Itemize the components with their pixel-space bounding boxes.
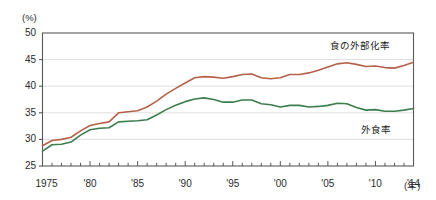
line-chart-plot [0, 0, 436, 200]
series-label-eating-out: 外食率 [361, 122, 391, 136]
y-gridlines [43, 60, 414, 140]
series-label-food-externalization: 食の外部化率 [330, 38, 390, 52]
plot-frame [43, 33, 414, 166]
chart-container: (%) (年) 253035404550 1975'80'85'90'95'00… [0, 0, 436, 200]
series-line-food-externalization [43, 62, 414, 146]
x-axis-ticks [43, 161, 414, 166]
